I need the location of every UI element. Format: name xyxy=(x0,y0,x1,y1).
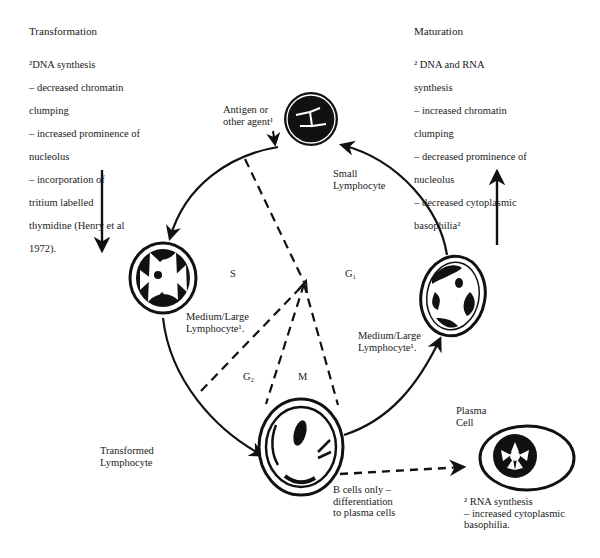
plasma-cell xyxy=(480,426,574,490)
transformation-heading: Transformation xyxy=(29,26,97,38)
transformation-line: – increased prominence of xyxy=(29,128,140,140)
plasma-cell-notes: ² RNA synthesis – increased cytoplasmic … xyxy=(464,496,565,531)
transformation-line: – decreased chromatin xyxy=(29,82,140,94)
medium-large-right-label: Medium/Large Lymphocyte¹. xyxy=(358,330,421,353)
maturation-line: ² DNA and RNA xyxy=(414,59,527,71)
phase-divider-lines xyxy=(201,159,338,405)
transformation-line: clumping xyxy=(29,105,140,117)
b-cells-label: B cells only – differentiation to plasma… xyxy=(333,484,395,519)
transformation-line: tritium labelled xyxy=(29,197,140,209)
maturation-line: – decreased prominence of xyxy=(414,151,527,163)
transformation-line: – incorporation of xyxy=(29,174,140,186)
maturation-line: basophilia² xyxy=(414,220,527,232)
maturation-line: nucleolus xyxy=(414,174,527,186)
arc-medium-left-to-transformed xyxy=(163,318,262,455)
maturation-line: clumping xyxy=(414,128,527,140)
medium-large-left-label: Medium/Large Lymphocyte¹. xyxy=(186,311,249,334)
arc-transformed-to-medium-right xyxy=(344,339,440,435)
antigen-label: Antigen or other agent¹ xyxy=(223,104,273,127)
transformation-notes: ²DNA synthesis – decreased chromatin clu… xyxy=(29,47,140,266)
maturation-line: synthesis xyxy=(414,82,527,94)
plasma-cell-label: Plasma Cell xyxy=(456,405,486,428)
phase-g2-label: G₂ xyxy=(243,371,254,382)
transformation-line: 1972). xyxy=(29,243,140,255)
transformation-line: nucleolus xyxy=(29,151,140,163)
maturation-notes: ² DNA and RNA synthesis – increased chro… xyxy=(414,47,527,243)
phase-s-label: S xyxy=(230,268,236,279)
transformed-lymphocyte-label: Transformed Lymphocyte xyxy=(100,445,154,468)
phase-m-label: M xyxy=(298,371,307,382)
maturation-line: – decreased cytoplasmic xyxy=(414,197,527,209)
transformed-lymphocyte-cell xyxy=(259,399,343,495)
antigen-arrow xyxy=(273,131,275,144)
transformation-line: ²DNA synthesis xyxy=(29,59,140,71)
medium-large-lymphocyte-right-cell xyxy=(415,251,492,341)
transformation-line: thymidine (Henry et al xyxy=(29,220,140,232)
b-cell-differentiation-arrow xyxy=(340,467,463,474)
maturation-line: – increased chromatin xyxy=(414,105,527,117)
small-lymphocyte-label: Small Lymphocyte xyxy=(333,168,386,191)
small-lymphocyte-cell xyxy=(284,92,338,146)
phase-g1-label: G₁ xyxy=(345,268,356,279)
maturation-heading: Maturation xyxy=(414,26,463,38)
